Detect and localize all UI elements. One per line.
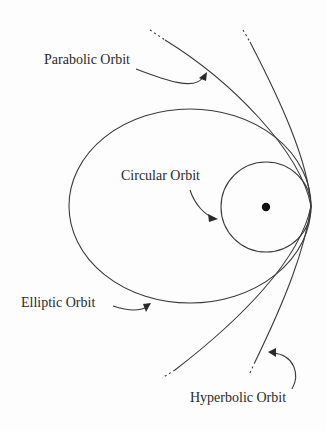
- central-body-dot: [262, 203, 270, 211]
- parabolic-orbit-dashed-bottom: [162, 370, 175, 378]
- hyperbolic-orbit-label: Hyperbolic Orbit: [190, 391, 286, 405]
- hyperbolic-orbit-dashed-top: [243, 30, 250, 42]
- elliptic-arrowhead: [143, 303, 151, 312]
- parabolic-orbit: [165, 40, 311, 370]
- elliptic-orbit-label: Elliptic Orbit: [21, 296, 95, 310]
- parabolic-orbit-dashed-top: [150, 30, 165, 40]
- elliptic-pointer: [113, 306, 147, 310]
- elliptic-orbit: [69, 109, 311, 303]
- parabolic-orbit-label: Parabolic Orbit: [44, 53, 130, 67]
- hyperbolic-arrowhead: [268, 348, 276, 357]
- circular-pointer: [190, 190, 214, 218]
- circular-orbit-label: Circular Orbit: [121, 169, 200, 183]
- hyperbolic-pointer: [273, 353, 296, 389]
- hyperbolic-orbit: [250, 42, 311, 362]
- parabolic-pointer: [136, 69, 203, 84]
- hyperbolic-orbit-dashed-bottom: [249, 362, 255, 375]
- circular-arrowhead: [208, 214, 218, 222]
- orbit-diagram: Parabolic Orbit Circular Orbit Elliptic …: [0, 0, 326, 431]
